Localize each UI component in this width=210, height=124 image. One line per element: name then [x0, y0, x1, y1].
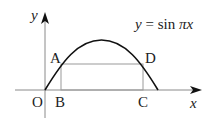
function-label-y: y — [133, 16, 142, 32]
sine-curve — [45, 40, 158, 90]
point-label-origin: O — [32, 94, 43, 110]
function-label: y = sin πx — [133, 16, 193, 32]
point-label-a: A — [50, 50, 61, 66]
rectangle-abcd — [61, 64, 143, 90]
y-axis-label: y — [29, 7, 38, 23]
function-label-x: x — [185, 16, 193, 32]
function-label-eq: = — [142, 16, 158, 32]
point-label-b: B — [55, 94, 65, 110]
sine-diagram: y x O B C A D y = sin πx — [0, 0, 210, 124]
x-axis-label: x — [189, 95, 197, 111]
function-label-sin: sin — [158, 16, 179, 32]
point-label-c: C — [138, 94, 148, 110]
point-label-d: D — [145, 50, 156, 66]
